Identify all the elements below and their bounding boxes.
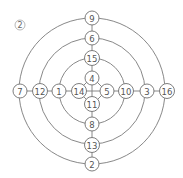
node-label: 12 xyxy=(35,87,46,97)
node-label: 5 xyxy=(104,87,109,97)
node-label: 6 xyxy=(89,34,94,44)
node-7: 7 xyxy=(13,84,27,98)
node-10: 10 xyxy=(119,84,134,99)
node-label: 9 xyxy=(89,14,94,24)
node-label: 15 xyxy=(87,54,98,64)
node-6: 6 xyxy=(85,31,99,45)
node-label: 16 xyxy=(162,87,173,97)
node-label: 13 xyxy=(87,141,98,151)
figure-label-text: 2 xyxy=(17,21,22,30)
node-label: 11 xyxy=(87,100,98,110)
node-3: 3 xyxy=(140,84,154,98)
node-16: 16 xyxy=(160,84,175,99)
node-label: 8 xyxy=(89,120,94,130)
node-14: 14 xyxy=(72,84,87,99)
node-label: 2 xyxy=(89,160,94,170)
node-1: 1 xyxy=(52,84,66,98)
node-label: 10 xyxy=(121,87,132,97)
node-13: 13 xyxy=(85,138,100,153)
figure-label: 2 xyxy=(15,20,25,30)
node-4: 4 xyxy=(85,71,99,85)
node-8: 8 xyxy=(85,117,99,131)
node-label: 14 xyxy=(74,87,85,97)
node-11: 11 xyxy=(85,97,100,112)
node-9: 9 xyxy=(85,11,99,25)
concentric-ring-diagram: 96154118132712114510316 2 xyxy=(0,0,183,178)
node-label: 4 xyxy=(89,74,94,84)
node-2: 2 xyxy=(85,157,99,171)
node-label: 7 xyxy=(17,87,22,97)
node-label: 3 xyxy=(144,87,149,97)
node-label: 1 xyxy=(56,87,61,97)
node-15: 15 xyxy=(85,51,100,66)
node-5: 5 xyxy=(100,84,114,98)
node-12: 12 xyxy=(33,84,48,99)
